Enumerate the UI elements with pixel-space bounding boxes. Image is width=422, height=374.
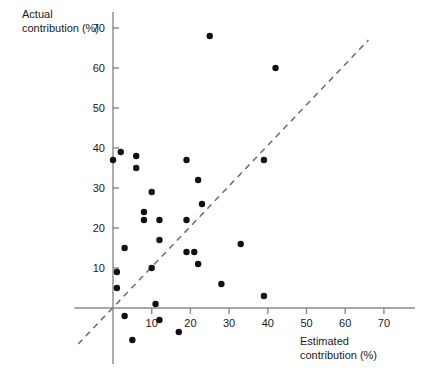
reference-line — [78, 40, 368, 344]
plot-canvas: 1020304050607010203040506070 Actualcontr… — [0, 0, 422, 374]
data-point — [191, 249, 197, 255]
x-tick-label: 40 — [262, 317, 274, 329]
x-tick-label: 20 — [184, 317, 196, 329]
data-point — [156, 217, 162, 223]
axes-group: 1020304050607010203040506070 — [74, 12, 415, 364]
x-axis-title-line2: contribution (%) — [300, 349, 377, 361]
data-point — [261, 157, 267, 163]
data-point — [261, 293, 267, 299]
x-tick-label: 60 — [339, 317, 351, 329]
data-point — [156, 317, 162, 323]
data-point — [121, 245, 127, 251]
y-tick-label: 60 — [93, 62, 105, 74]
data-point — [156, 237, 162, 243]
scatter-plot-figure: 1020304050607010203040506070 Actualcontr… — [0, 0, 422, 374]
data-point — [207, 33, 213, 39]
data-point — [238, 241, 244, 247]
data-point — [183, 157, 189, 163]
y-tick-label: 50 — [93, 102, 105, 114]
x-axis-title-line1: Estimated — [300, 335, 349, 347]
data-point — [183, 249, 189, 255]
data-point — [133, 165, 139, 171]
data-point — [199, 201, 205, 207]
data-point — [176, 329, 182, 335]
data-point — [118, 149, 124, 155]
y-tick-label: 10 — [93, 262, 105, 274]
y-tick-label: 30 — [93, 182, 105, 194]
data-point — [272, 65, 278, 71]
data-point — [129, 337, 135, 343]
data-point — [195, 261, 201, 267]
y-axis-title-line1: Actual — [22, 8, 53, 20]
identity-reference-line — [78, 40, 368, 344]
data-point — [218, 281, 224, 287]
y-tick-label: 20 — [93, 222, 105, 234]
data-point — [121, 313, 127, 319]
y-tick-label: 40 — [93, 142, 105, 154]
data-point — [141, 209, 147, 215]
data-points-group — [110, 33, 279, 343]
data-point — [183, 217, 189, 223]
data-point — [141, 217, 147, 223]
data-point — [114, 285, 120, 291]
x-tick-label: 10 — [146, 317, 158, 329]
x-tick-label: 70 — [378, 317, 390, 329]
data-point — [114, 269, 120, 275]
y-axis-title-line2: contribution (%) — [22, 22, 99, 34]
data-point — [133, 153, 139, 159]
x-tick-label: 50 — [300, 317, 312, 329]
data-point — [149, 189, 155, 195]
x-tick-label: 30 — [223, 317, 235, 329]
data-point — [195, 177, 201, 183]
data-point — [152, 301, 158, 307]
data-point — [149, 265, 155, 271]
data-point — [110, 157, 116, 163]
